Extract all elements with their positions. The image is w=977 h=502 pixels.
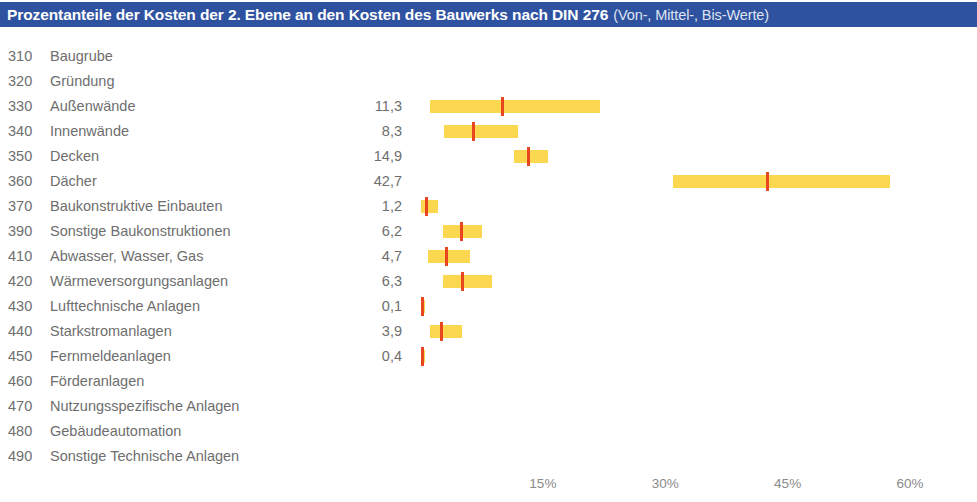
- row-cost-group-label: Sonstige Technische Anlagen: [50, 444, 239, 469]
- table-row[interactable]: 460Förderanlagen: [0, 369, 977, 394]
- table-row[interactable]: 480Gebäudeautomation: [0, 419, 977, 444]
- row-cost-group-code: 470: [8, 394, 44, 419]
- row-mean-value: 3,9: [322, 319, 402, 344]
- row-cost-group-label: Baukonstruktive Einbauten: [50, 194, 223, 219]
- x-axis-tick-label: 45%: [774, 476, 801, 491]
- range-bar: [430, 100, 600, 113]
- row-mean-value: 0,4: [322, 344, 402, 369]
- mean-marker: [501, 97, 504, 116]
- row-cost-group-label: Sonstige Baukonstruktionen: [50, 219, 231, 244]
- row-cost-group-label: Wärmeversorgungsanlagen: [50, 269, 228, 294]
- row-cost-group-code: 390: [8, 219, 44, 244]
- row-mean-value: 6,2: [322, 219, 402, 244]
- row-cost-group-label: Decken: [50, 144, 99, 169]
- row-cost-group-label: Nutzungsspezifische Anlagen: [50, 394, 239, 419]
- row-cost-group-label: Abwasser, Wasser, Gas: [50, 244, 203, 269]
- table-row[interactable]: 450Fernmeldeanlagen0,4: [0, 344, 977, 369]
- row-cost-group-code: 330: [8, 94, 44, 119]
- row-cost-group-label: Förderanlagen: [50, 369, 144, 394]
- chart-title-main: Prozentanteile der Kosten der 2. Ebene a…: [0, 6, 608, 24]
- table-row[interactable]: 330Außenwände11,3: [0, 94, 977, 119]
- range-bar: [673, 175, 890, 188]
- row-cost-group-label: Dächer: [50, 169, 97, 194]
- row-cost-group-code: 410: [8, 244, 44, 269]
- table-row[interactable]: 430Lufttechnische Anlagen0,1: [0, 294, 977, 319]
- chart-title-band: Prozentanteile der Kosten der 2. Ebene a…: [0, 2, 977, 27]
- mean-marker: [460, 222, 463, 241]
- row-cost-group-code: 490: [8, 444, 44, 469]
- row-cost-group-label: Gründung: [50, 69, 115, 94]
- row-cost-group-label: Lufttechnische Anlagen: [50, 294, 200, 319]
- row-cost-group-code: 480: [8, 419, 44, 444]
- range-bar: [421, 200, 439, 213]
- table-row[interactable]: 310Baugrube: [0, 44, 977, 69]
- row-mean-value: 42,7: [322, 169, 402, 194]
- table-row[interactable]: 410Abwasser, Wasser, Gas4,7: [0, 244, 977, 269]
- row-cost-group-code: 440: [8, 319, 44, 344]
- range-bar: [430, 325, 462, 338]
- table-row[interactable]: 440Starkstromanlagen3,9: [0, 319, 977, 344]
- table-row[interactable]: 420Wärmeversorgungsanlagen6,3: [0, 269, 977, 294]
- row-cost-group-code: 350: [8, 144, 44, 169]
- mean-marker: [472, 122, 475, 141]
- mean-marker: [425, 197, 428, 216]
- table-row[interactable]: 350Decken14,9: [0, 144, 977, 169]
- x-axis-tick-label: 30%: [652, 476, 679, 491]
- mean-marker: [527, 147, 530, 166]
- range-bar: [514, 150, 547, 163]
- row-cost-group-code: 450: [8, 344, 44, 369]
- row-cost-group-code: 320: [8, 69, 44, 94]
- mean-marker: [440, 322, 443, 341]
- x-axis-tick-label: 15%: [529, 476, 556, 491]
- x-axis-tick-label: 60%: [896, 476, 923, 491]
- table-row[interactable]: 490Sonstige Technische Anlagen: [0, 444, 977, 469]
- row-mean-value: 14,9: [322, 144, 402, 169]
- mean-marker: [445, 247, 448, 266]
- row-cost-group-label: Außenwände: [50, 94, 135, 119]
- row-cost-group-code: 340: [8, 119, 44, 144]
- row-mean-value: 6,3: [322, 269, 402, 294]
- row-cost-group-code: 420: [8, 269, 44, 294]
- mean-marker: [421, 297, 424, 316]
- range-bar: [444, 125, 517, 138]
- row-cost-group-code: 310: [8, 44, 44, 69]
- range-bar: [443, 275, 493, 288]
- row-cost-group-label: Baugrube: [50, 44, 113, 69]
- mean-marker: [461, 272, 464, 291]
- mean-marker: [421, 347, 424, 366]
- chart-plot-area: 310Baugrube320Gründung330Außenwände11,33…: [0, 27, 977, 502]
- table-row[interactable]: 360Dächer42,7: [0, 169, 977, 194]
- row-mean-value: 4,7: [322, 244, 402, 269]
- row-cost-group-label: Fernmeldeanlagen: [50, 344, 171, 369]
- row-cost-group-code: 370: [8, 194, 44, 219]
- chart-title-subtitle: (Von-, Mittel-, Bis-Werte): [608, 7, 769, 23]
- row-cost-group-code: 360: [8, 169, 44, 194]
- table-row[interactable]: 390Sonstige Baukonstruktionen6,2: [0, 219, 977, 244]
- mean-marker: [766, 172, 769, 191]
- table-row[interactable]: 320Gründung: [0, 69, 977, 94]
- range-bar: [428, 250, 470, 263]
- table-row[interactable]: 470Nutzungsspezifische Anlagen: [0, 394, 977, 419]
- x-axis: 15%30%45%60%: [0, 470, 977, 502]
- row-mean-value: 1,2: [322, 194, 402, 219]
- row-cost-group-label: Starkstromanlagen: [50, 319, 172, 344]
- table-row[interactable]: 340Innenwände8,3: [0, 119, 977, 144]
- row-mean-value: 11,3: [322, 94, 402, 119]
- row-cost-group-label: Innenwände: [50, 119, 129, 144]
- row-cost-group-code: 430: [8, 294, 44, 319]
- row-mean-value: 0,1: [322, 294, 402, 319]
- row-cost-group-label: Gebäudeautomation: [50, 419, 181, 444]
- range-bar: [443, 225, 482, 238]
- table-row[interactable]: 370Baukonstruktive Einbauten1,2: [0, 194, 977, 219]
- row-mean-value: 8,3: [322, 119, 402, 144]
- row-cost-group-code: 460: [8, 369, 44, 394]
